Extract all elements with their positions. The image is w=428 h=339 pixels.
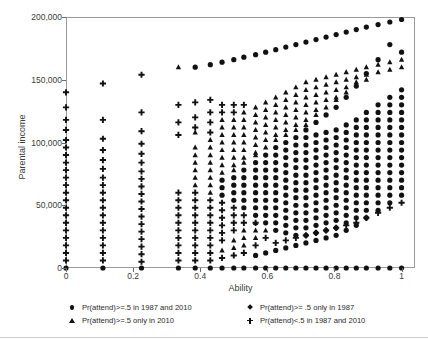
y-axis-tick-label: 100,000 (31, 138, 62, 148)
x-axis-tick-mark (402, 268, 403, 272)
legend-label: Pr(attend)>= .5 only in 1987 (256, 303, 354, 312)
legend-label: Pr(attend)<.5 in 1987 and 2010 (256, 316, 365, 325)
x-axis-tick-mark (334, 268, 335, 272)
chart-legend: Pr(attend)>=.5 in 1987 and 2010Pr(attend… (66, 302, 415, 332)
y-axis-tick-label: 50,000 (36, 200, 62, 210)
y-axis-title: Parental income (17, 87, 27, 207)
legend-marker-triangle-icon (66, 318, 78, 323)
x-axis-tick-label: 1 (399, 271, 404, 281)
x-axis-tick-label: 0.6 (261, 271, 273, 281)
x-axis-tick-label: 0.8 (329, 271, 341, 281)
x-axis-tick-mark (133, 268, 134, 272)
y-axis-tick-mark (62, 80, 66, 81)
legend-marker-diamond-icon (244, 305, 256, 309)
x-axis-tick-mark (267, 268, 268, 272)
legend-marker-plus-icon (244, 318, 256, 324)
y-axis-tick-mark (62, 17, 66, 18)
y-axis-tick-mark (62, 143, 66, 144)
x-axis-tick-label: 0 (64, 271, 69, 281)
x-axis-tick-mark (66, 268, 67, 272)
legend-marker-circle-icon (66, 305, 78, 310)
y-axis-tick-label: 150,000 (31, 75, 62, 85)
legend-entry[interactable]: Pr(attend)<.5 in 1987 and 2010 (244, 315, 365, 326)
y-axis-tick-mark (62, 205, 66, 206)
legend-label: Pr(attend)>=.5 only in 2010 (78, 316, 174, 325)
x-axis-title: Ability (66, 283, 415, 293)
legend-entry[interactable]: Pr(attend)>=.5 only in 2010 (66, 315, 174, 326)
y-axis-tick-label: 200,000 (31, 12, 62, 22)
x-axis-tick-mark (200, 268, 201, 272)
plot-frame (66, 17, 415, 268)
y-axis-tick-labels: 050,000100,000150,000200,000 (0, 0, 62, 339)
bottom-divider (0, 337, 428, 338)
x-axis-tick-label: 0.4 (194, 271, 206, 281)
legend-entry[interactable]: Pr(attend)>=.5 in 1987 and 2010 (66, 302, 192, 313)
legend-label: Pr(attend)>=.5 in 1987 and 2010 (78, 303, 192, 312)
legend-entry[interactable]: Pr(attend)>= .5 only in 1987 (244, 302, 354, 313)
x-axis-tick-label: 0.2 (127, 271, 139, 281)
chart-screenshot: 050,000100,000150,000200,000 Parental in… (0, 0, 428, 339)
